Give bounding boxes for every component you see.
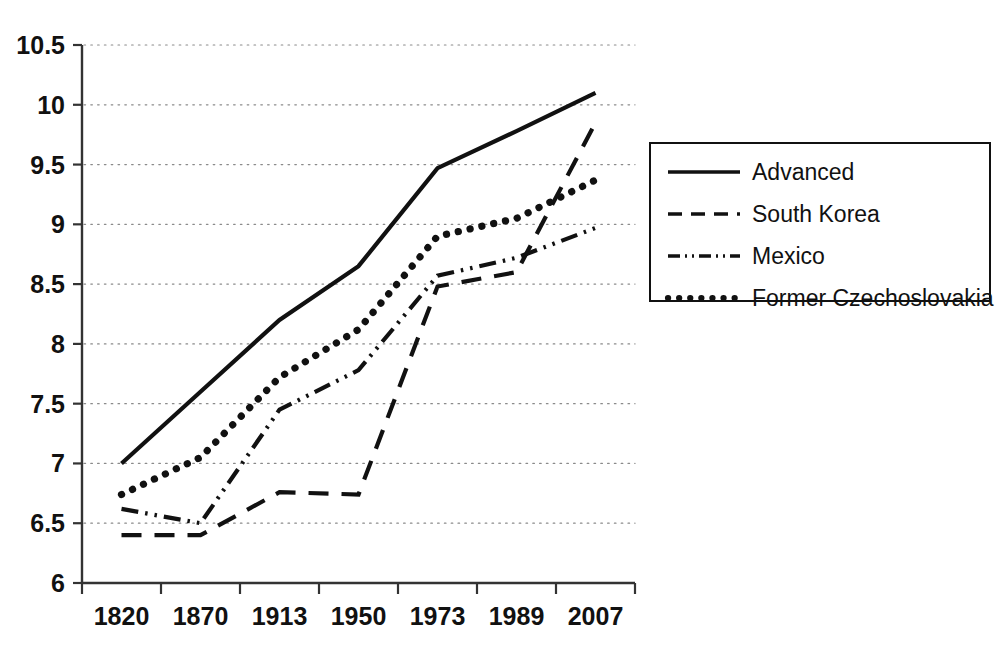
y-axis-tick-label: 10.5 xyxy=(16,31,65,59)
legend-label-former-czechoslovakia: Former Czechoslovakia xyxy=(752,285,994,311)
line-chart-svg: 66.577.588.599.51010.5 18201870191319501… xyxy=(0,0,1002,652)
chart-legend: AdvancedSouth KoreaMexicoFormer Czechosl… xyxy=(650,143,994,311)
y-axis-tick-label: 7.5 xyxy=(30,390,65,418)
legend-label-south-korea: South Korea xyxy=(752,201,880,227)
x-axis-tick-label: 2007 xyxy=(568,602,624,630)
y-axis-tick-label: 9 xyxy=(51,210,65,238)
x-axis-labels-group: 1820187019131950197319892007 xyxy=(94,602,624,630)
chart-figure: 66.577.588.599.51010.5 18201870191319501… xyxy=(0,0,1002,652)
y-axis-tick-label: 6.5 xyxy=(30,509,65,537)
y-axis-tick-label: 9.5 xyxy=(30,151,65,179)
y-axis-tick-label: 8.5 xyxy=(30,270,65,298)
x-axis-tick-label: 1973 xyxy=(410,602,466,630)
y-axis-tick-label: 10 xyxy=(37,91,65,119)
x-axis-tick-label: 1870 xyxy=(173,602,229,630)
x-axis-tick-label: 1913 xyxy=(252,602,308,630)
legend-label-advanced: Advanced xyxy=(752,159,854,185)
x-axis-tick-label: 1989 xyxy=(489,602,545,630)
chart-background xyxy=(0,0,1002,652)
legend-label-mexico: Mexico xyxy=(752,243,825,269)
x-axis-tick-label: 1950 xyxy=(331,602,387,630)
y-axis-tick-label: 6 xyxy=(51,569,65,597)
x-axis-tick-label: 1820 xyxy=(94,602,150,630)
y-axis-tick-label: 8 xyxy=(51,330,65,358)
y-axis-tick-label: 7 xyxy=(51,449,65,477)
